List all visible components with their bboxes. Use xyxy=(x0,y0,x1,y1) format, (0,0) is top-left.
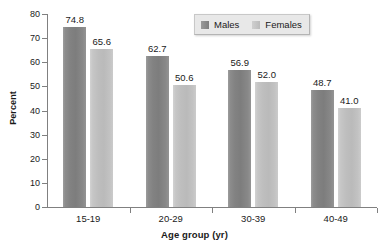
legend-label-males: Males xyxy=(214,19,239,30)
bar-males-40-49 xyxy=(311,90,334,207)
x-axis-title: Age group (yr) xyxy=(0,229,389,240)
bar-females-20-29 xyxy=(173,85,196,207)
x-axis-group-label: 20-29 xyxy=(130,213,213,224)
bar-value-label: 65.6 xyxy=(84,36,119,47)
legend-item-males: Males xyxy=(201,19,239,30)
bar-males-20-29 xyxy=(146,56,169,207)
bar-females-15-19 xyxy=(90,49,113,207)
y-axis-tick-label: 30 xyxy=(0,130,40,140)
legend-label-females: Females xyxy=(265,19,301,30)
bar-value-label: 74.8 xyxy=(57,14,92,25)
x-axis-group-label: 30-39 xyxy=(212,213,295,224)
x-axis-group-label: 15-19 xyxy=(47,213,130,224)
bar-value-label: 50.6 xyxy=(167,72,202,83)
bar-value-label: 56.9 xyxy=(222,57,257,68)
y-axis-tick-label: 20 xyxy=(0,154,40,164)
bar-females-40-49 xyxy=(338,108,361,207)
legend-item-females: Females xyxy=(252,19,301,30)
bar-value-label: 62.7 xyxy=(140,43,175,54)
y-axis-tick-label: 0 xyxy=(0,202,40,212)
y-axis-tick-label: 70 xyxy=(0,33,40,43)
bar-chart: Percent 01020304050607080 74.865.662.750… xyxy=(0,0,389,251)
bar-value-label: 52.0 xyxy=(249,69,284,80)
y-axis-tick-label: 50 xyxy=(0,81,40,91)
bar-females-30-39 xyxy=(255,82,278,207)
x-axis-group-label: 40-49 xyxy=(295,213,378,224)
bar-value-label: 41.0 xyxy=(332,95,367,106)
bar-value-label: 48.7 xyxy=(305,77,340,88)
y-axis-tick-label: 60 xyxy=(0,57,40,67)
bar-males-30-39 xyxy=(228,70,251,207)
males-swatch-icon xyxy=(201,21,209,29)
females-swatch-icon xyxy=(252,21,260,29)
legend: Males Females xyxy=(194,14,310,35)
y-axis-tick-label: 40 xyxy=(0,106,40,116)
y-axis-tick-label: 80 xyxy=(0,9,40,19)
bar-males-15-19 xyxy=(63,27,86,207)
y-axis-tick-label: 10 xyxy=(0,178,40,188)
x-axis-end-tick xyxy=(377,208,378,213)
y-axis-tick xyxy=(42,207,47,208)
